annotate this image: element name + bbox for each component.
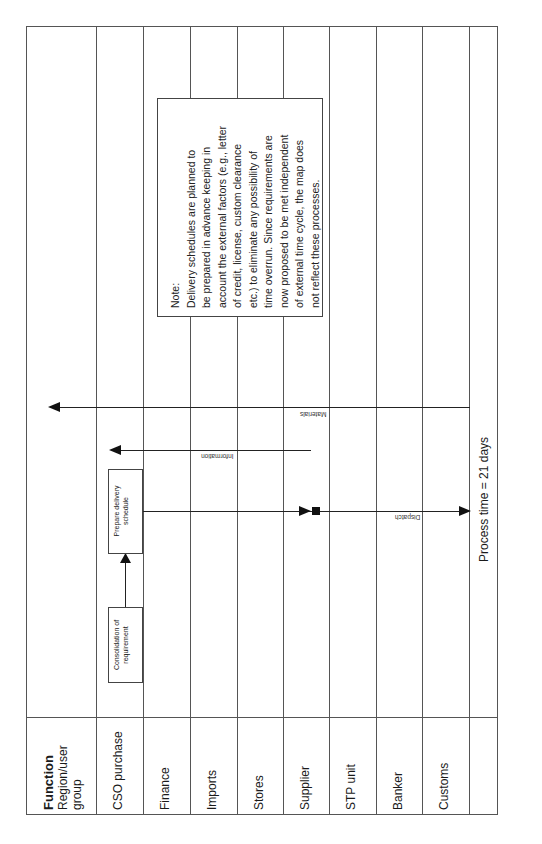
note-line: time overrun. Since requirements are bbox=[261, 126, 277, 308]
lane-label-banker: Banker bbox=[391, 772, 405, 810]
arrowhead-right-icon bbox=[459, 506, 471, 516]
inventory-square-icon bbox=[312, 507, 320, 515]
lane-label-imports: Imports bbox=[205, 770, 219, 810]
header-cell: Function Region/user group bbox=[42, 745, 84, 810]
information-flow-line bbox=[118, 450, 311, 451]
lane-label-finance: Finance bbox=[158, 767, 172, 810]
lane-divider bbox=[96, 26, 97, 815]
lane-divider bbox=[143, 26, 144, 815]
lane-label-stp-unit: STP unit bbox=[344, 764, 358, 810]
arrowhead-right-icon bbox=[299, 506, 311, 516]
lane-divider bbox=[422, 26, 423, 815]
arrowhead-left-icon bbox=[109, 445, 121, 455]
lane-divider bbox=[376, 26, 377, 815]
lane-label-customs: Customs bbox=[437, 763, 451, 810]
note-line: Delivery schedules are planned to bbox=[184, 126, 200, 308]
note-line: of external time cycle, the map does bbox=[292, 126, 308, 308]
prepare-box-text: Prepare delivery schedule bbox=[112, 476, 130, 546]
note-line: be prepared in advance keeping in bbox=[199, 126, 215, 308]
materials-label: Materials bbox=[300, 411, 326, 418]
materials-flow-line bbox=[57, 407, 470, 408]
arrowhead-up-icon bbox=[120, 553, 131, 563]
consolidation-to-prepare-arrow bbox=[125, 560, 126, 607]
dispatch-label: Dispatch bbox=[395, 514, 420, 521]
note-line: account the external factors (e.g., lett… bbox=[215, 126, 231, 308]
lane-label-cso-purchase: CSO purchase bbox=[111, 731, 125, 810]
header-divider bbox=[26, 717, 498, 718]
note-line: etc.) to eliminate any possibility of bbox=[246, 126, 262, 308]
note-line: of credit, license, custom clearance bbox=[230, 126, 246, 308]
function-label: Function bbox=[42, 745, 56, 810]
lane-label-supplier: Supplier bbox=[298, 766, 312, 810]
region-label: Region/user bbox=[56, 745, 70, 810]
group-label: group bbox=[70, 745, 84, 810]
lane-divider bbox=[469, 26, 470, 815]
note-title: Note: bbox=[168, 126, 184, 308]
arrowhead-left-icon bbox=[48, 402, 60, 412]
note-line: now proposed to be met independent bbox=[277, 126, 293, 308]
lane-label-stores: Stores bbox=[252, 775, 266, 810]
information-label: Information bbox=[201, 453, 234, 460]
note-text: Note: Delivery schedules are planned to … bbox=[168, 126, 323, 308]
consolidation-box-text: Consolidation of requirement bbox=[112, 614, 130, 676]
lane-divider bbox=[329, 26, 330, 815]
note-line: not reflect these processes. bbox=[308, 126, 324, 308]
process-time-label: Process time = 21 days bbox=[477, 437, 491, 562]
